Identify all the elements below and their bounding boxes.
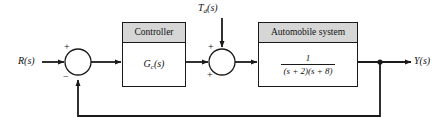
plant-transfer-function: 1 (s + 2)(s + 8)	[281, 53, 334, 77]
diagram-wires	[0, 0, 446, 131]
controller-block-body: Gc(s)	[123, 43, 185, 86]
error-junction-plus-sign: +	[64, 42, 70, 52]
automobile-system-block-title: Automobile system	[259, 23, 357, 43]
disturbance-signal-label: Td(s)	[198, 2, 218, 15]
disturbance-argument: (s)	[207, 2, 218, 13]
reference-signal-label: R(s)	[18, 55, 35, 66]
plant-numerator: 1	[281, 53, 334, 63]
disturbance-junction-top-plus-sign: +	[208, 42, 214, 52]
controller-block-title: Controller	[123, 23, 185, 43]
controller-gc-base: G	[144, 58, 151, 69]
block-diagram-canvas: Controller Gc(s) Automobile system 1 (s …	[0, 0, 446, 131]
error-junction-minus-sign: −	[63, 72, 69, 82]
plant-denominator: (s + 2)(s + 8)	[281, 66, 334, 76]
controller-gc-argument: (s)	[154, 58, 165, 69]
output-signal-label: Y(s)	[414, 55, 430, 66]
disturbance-junction-left-plus-sign: +	[207, 70, 213, 80]
automobile-system-block: Automobile system 1 (s + 2)(s + 8)	[258, 22, 358, 87]
controller-block: Controller Gc(s)	[122, 22, 186, 87]
fraction-bar	[281, 64, 334, 65]
controller-transfer-function: Gc(s)	[144, 58, 165, 71]
automobile-system-block-body: 1 (s + 2)(s + 8)	[259, 43, 357, 86]
